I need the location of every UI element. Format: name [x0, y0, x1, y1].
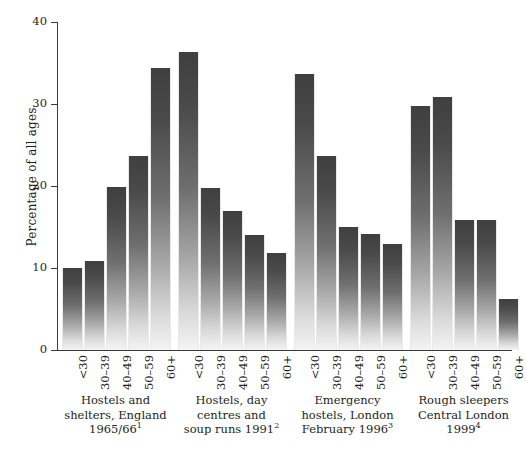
- y-tick-label-10: 10: [32, 260, 47, 274]
- bar: [150, 68, 171, 350]
- bar: [106, 187, 127, 350]
- bar: [432, 97, 453, 350]
- plot-area: 010203040 <3030–3940–4950–5960+<3030–394…: [57, 22, 512, 350]
- group-caption-line: Central London: [384, 408, 526, 423]
- bar: [84, 261, 105, 350]
- bar: [338, 227, 359, 350]
- bar: [266, 253, 287, 350]
- y-tick-label-30: 30: [32, 96, 47, 110]
- bar: [128, 156, 149, 350]
- bar: [62, 268, 83, 350]
- footnote-marker: 4: [476, 421, 481, 430]
- bar: [222, 211, 243, 350]
- y-tick-label-40: 40: [32, 14, 47, 28]
- bar: [316, 156, 337, 350]
- x-axis-line: [57, 350, 512, 351]
- bar: [360, 234, 381, 350]
- bar: [244, 235, 265, 350]
- bar: [476, 220, 497, 350]
- y-tick-30: 30: [51, 104, 57, 105]
- footnote-marker: 1: [137, 421, 142, 430]
- y-axis-line: [57, 22, 58, 351]
- y-tick-40: 40: [51, 22, 57, 23]
- y-tick-label-20: 20: [32, 178, 47, 192]
- bar: [178, 52, 199, 350]
- bar: [382, 244, 403, 350]
- group-caption-line: Rough sleepers: [384, 393, 526, 408]
- bar: [294, 74, 315, 350]
- bar: [498, 299, 519, 350]
- y-tick-label-0: 0: [40, 342, 47, 356]
- bar-chart: Percentage of all ages 010203040 <3030–3…: [0, 0, 526, 452]
- y-tick-0: 0: [51, 350, 57, 351]
- bar: [454, 220, 475, 350]
- y-tick-10: 10: [51, 268, 57, 269]
- group-caption-line: 19994: [384, 422, 526, 437]
- y-tick-20: 20: [51, 186, 57, 187]
- bar: [410, 106, 431, 350]
- bar: [200, 188, 221, 350]
- group-caption: Rough sleepersCentral London19994: [384, 393, 526, 437]
